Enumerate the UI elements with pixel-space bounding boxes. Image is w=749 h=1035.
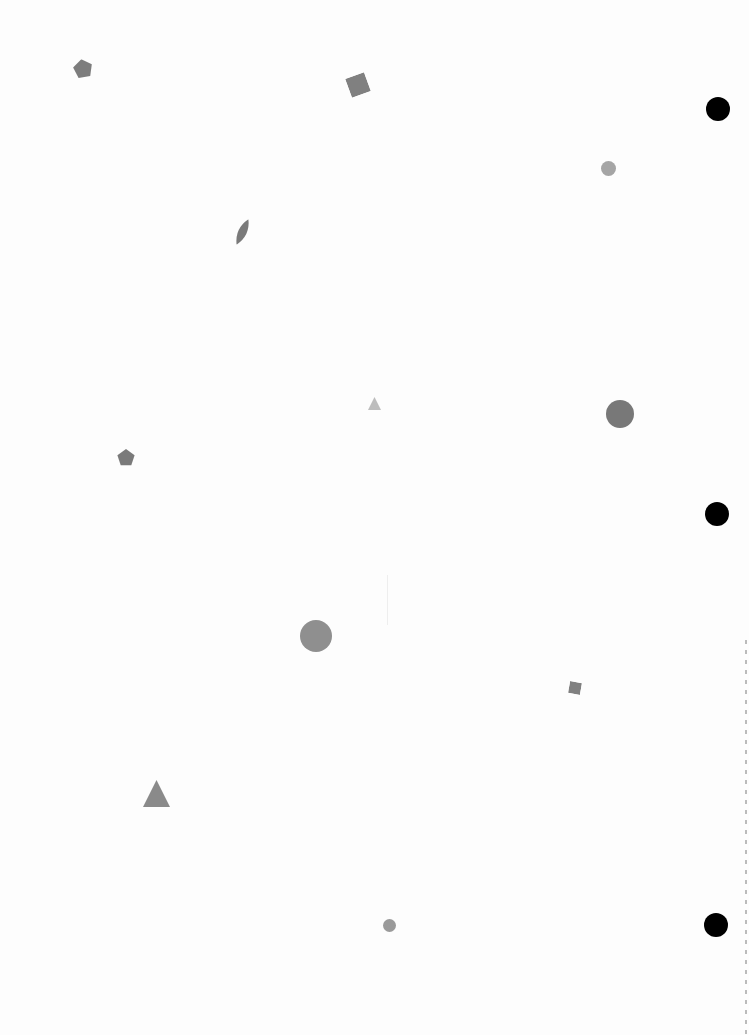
circle-shape-icon — [606, 400, 634, 428]
hole-punch-icon — [706, 97, 730, 121]
triangle-shape-icon — [143, 780, 170, 807]
triangle-shape-icon — [368, 397, 381, 410]
hole-punch-icon — [705, 502, 729, 526]
scanned-page — [0, 0, 749, 1035]
circle-shape-icon — [383, 919, 396, 932]
pentagon-shape-icon — [71, 57, 94, 80]
pentagon-shape-icon — [117, 449, 135, 467]
square-shape-icon — [345, 72, 371, 98]
circle-shape-icon — [300, 620, 332, 652]
circle-shape-icon — [601, 161, 616, 176]
square-shape-icon — [568, 681, 582, 695]
perforated-edge — [745, 640, 747, 1035]
faint-scan-line — [387, 575, 388, 625]
leaf-shape-icon — [229, 216, 256, 249]
hole-punch-icon — [704, 913, 728, 937]
